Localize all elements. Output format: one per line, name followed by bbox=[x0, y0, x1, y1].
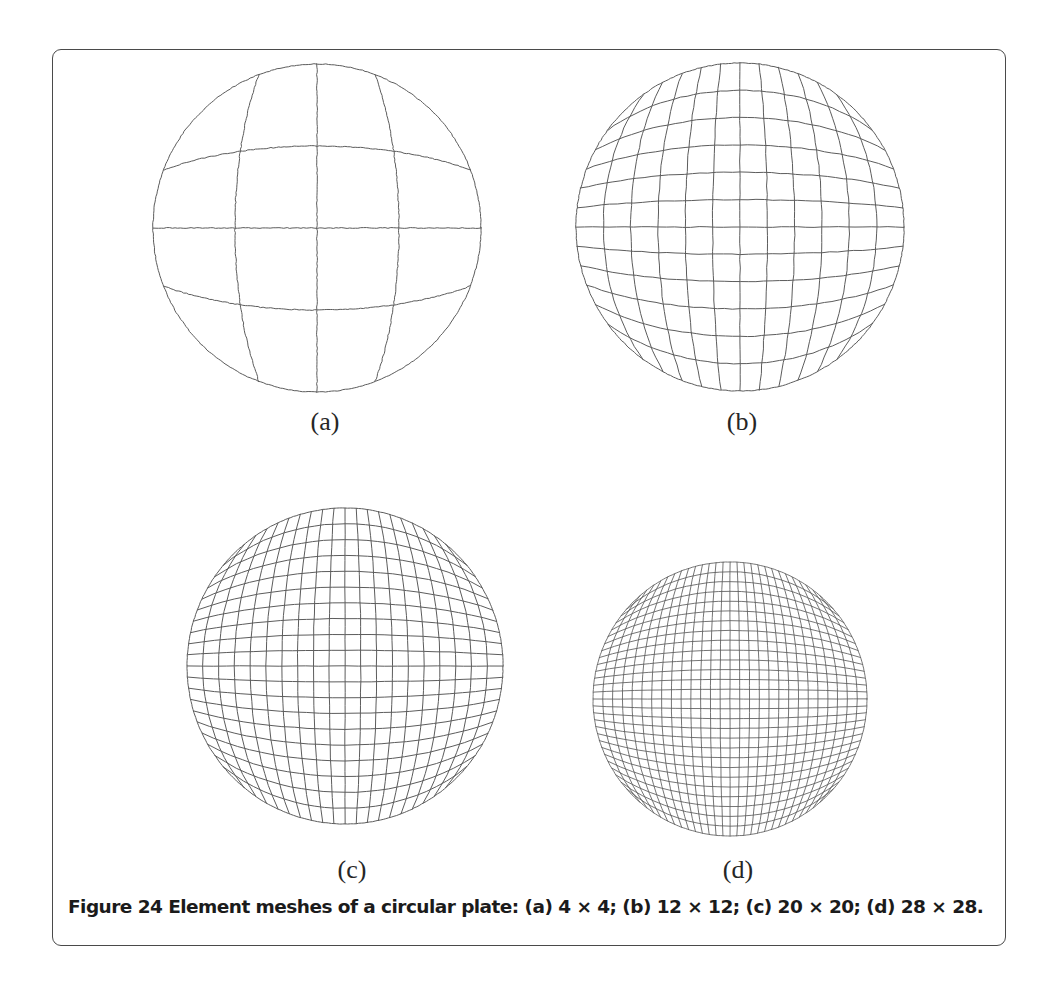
panel-label-a: (a) bbox=[265, 409, 385, 435]
panel-label-d: (d) bbox=[678, 857, 798, 883]
figure-caption: Figure 24 Element meshes of a circular p… bbox=[68, 896, 948, 917]
panel-label-c: (c) bbox=[292, 857, 412, 883]
figure-container: (a) (b) (c) (d) Figure 24 Element meshes… bbox=[0, 0, 1052, 990]
panel-label-b: (b) bbox=[682, 409, 802, 435]
figure-frame-border bbox=[52, 49, 1006, 946]
